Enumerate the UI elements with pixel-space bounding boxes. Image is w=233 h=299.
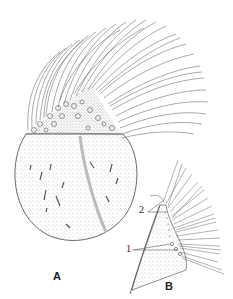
figure-illustration — [0, 0, 233, 299]
annotation-label-1: 1 — [126, 243, 131, 254]
panel-b-drawing — [130, 160, 224, 294]
panel-label-b: B — [165, 280, 173, 292]
panel-label-a: A — [53, 270, 61, 282]
panel-a-body — [15, 133, 137, 240]
annotation-label-2: 2 — [139, 204, 144, 215]
